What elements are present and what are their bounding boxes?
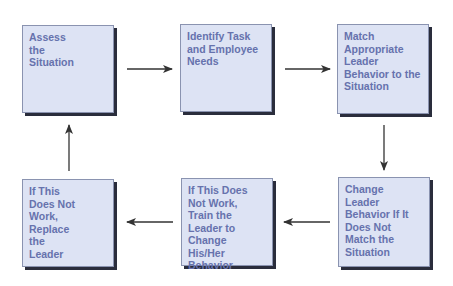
box-label: If This Does Not Work, Replace the Leade… [29, 185, 107, 260]
box-identify-needs: Identify Task and Employee Needs [180, 24, 272, 112]
box-label: Identify Task and Employee Needs [187, 30, 265, 68]
box-match-behavior: Match Appropriate Leader Behavior to the… [337, 24, 429, 114]
box-change-behavior: Change Leader Behavior If It Does Not Ma… [338, 177, 430, 267]
box-label: Change Leader Behavior If It Does Not Ma… [345, 183, 423, 258]
box-label: Match Appropriate Leader Behavior to the… [344, 30, 422, 93]
box-assess-situation: Assess the Situation [22, 25, 114, 113]
box-train-leader: If This Does Not Work, Train the Leader … [181, 178, 273, 266]
box-label: Assess the Situation [29, 31, 107, 69]
box-label: If This Does Not Work, Train the Leader … [188, 184, 266, 272]
box-replace-leader: If This Does Not Work, Replace the Leade… [22, 179, 114, 267]
